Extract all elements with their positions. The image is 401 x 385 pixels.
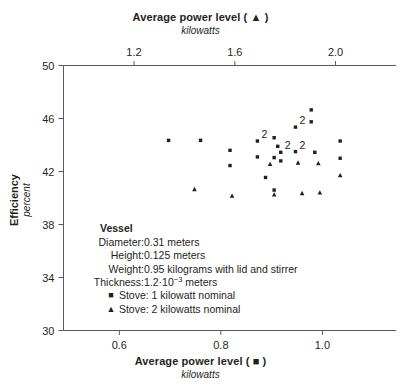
data-point-triangle [192, 187, 197, 191]
y-axis-tick-label: 30 [24, 325, 55, 337]
data-point-square [279, 159, 282, 162]
annotation-exponent: −3 [174, 274, 183, 283]
data-point-square [199, 139, 202, 142]
point-count-label: 2 [285, 139, 291, 151]
data-point-triangle [318, 190, 323, 194]
data-point-triangle [296, 160, 301, 164]
data-point-triangle [316, 161, 321, 165]
data-point-square [272, 136, 275, 139]
annotation-row-value: 0.95 kilograms with lid and stirrer [144, 263, 297, 276]
scatter-chart: Average power level ( ▲ ) kilowatts Aver… [0, 0, 401, 385]
y-axis-tick-label: 42 [24, 166, 55, 178]
data-point-square [167, 139, 170, 142]
point-count-label: 2 [299, 139, 305, 151]
bottom-axis-tick-label: 0.6 [112, 339, 127, 351]
annotation-legend: ■ Stove: 1 kilowatt nominal▲ Stove: 2 ki… [90, 289, 297, 317]
data-point-triangle [300, 191, 305, 195]
legend-item-label: Stove: 2 kilowatts nominal [116, 303, 240, 315]
vessel-annotation: Vessel Diameter: 0.31 metersHeight: 0.12… [90, 222, 297, 317]
annotation-rows: Diameter: 0.31 metersHeight: 0.125 meter… [90, 236, 297, 289]
y-axis-tick-label: 46 [24, 113, 55, 125]
annotation-row-value: 0.125 meters [144, 249, 205, 262]
point-count-label: 2 [261, 128, 267, 140]
data-point-square [256, 139, 259, 142]
data-point-square [228, 164, 231, 167]
y-axis-tick-label: 34 [24, 272, 55, 284]
annotation-row-key: Diameter: [90, 236, 144, 249]
data-point-square [310, 120, 313, 123]
data-point-square [279, 151, 282, 154]
data-point-square [256, 155, 259, 158]
bottom-axis-tick-label: 0.8 [213, 339, 228, 351]
data-point-triangle [272, 192, 277, 196]
data-point-square [264, 176, 267, 179]
legend-item: ▲ Stove: 2 kilowatts nominal [90, 303, 297, 317]
point-count-label: 2 [299, 114, 305, 126]
annotation-row: Height: 0.125 meters [90, 249, 297, 262]
data-point-triangle [230, 193, 235, 197]
data-point-triangle [268, 162, 273, 166]
data-point-square [338, 157, 341, 160]
y-axis-tick-label: 50 [24, 60, 55, 72]
annotation-row: Diameter: 0.31 meters [90, 236, 297, 249]
plot-area [0, 0, 401, 385]
data-point-square [294, 125, 297, 128]
y-axis-tick-label: 38 [24, 219, 55, 231]
annotation-row-value: 1.2·10−3 meters [144, 276, 217, 289]
legend-item-label: Stove: 1 kilowatt nominal [116, 289, 235, 301]
data-point-square [313, 151, 316, 154]
annotation-row-key: Height: [90, 249, 144, 262]
annotation-row-key: Thickness: [90, 276, 144, 289]
legend-item: ■ Stove: 1 kilowatt nominal [90, 289, 297, 303]
annotation-row: Thickness: 1.2·10−3 meters [90, 276, 297, 289]
top-axis-tick-label: 1.6 [227, 46, 242, 58]
annotation-row-key: Weight: [90, 263, 144, 276]
data-point-triangle [338, 173, 343, 177]
data-point-square [276, 145, 279, 148]
bottom-axis-tick-label: 1.0 [315, 339, 330, 351]
legend-square-icon: ■ [106, 289, 116, 302]
data-point-square [338, 139, 341, 142]
top-axis-tick-label: 1.2 [126, 46, 141, 58]
top-axis-tick-label: 2.0 [328, 46, 343, 58]
data-point-square [294, 150, 297, 153]
data-point-square [272, 156, 275, 159]
annotation-heading: Vessel [90, 222, 297, 236]
data-point-square [272, 188, 275, 191]
data-point-square [228, 149, 231, 152]
legend-triangle-icon: ▲ [106, 303, 116, 316]
annotation-row: Weight: 0.95 kilograms with lid and stir… [90, 263, 297, 276]
data-point-square [310, 108, 313, 111]
annotation-row-value: 0.31 meters [144, 236, 199, 249]
